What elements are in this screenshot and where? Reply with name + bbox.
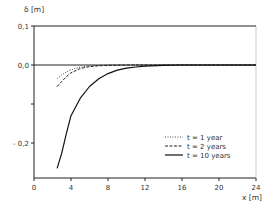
x-axis-title: x [m]: [242, 193, 262, 202]
y-tick-label-0.1: 0,1: [18, 23, 29, 31]
x-tick-label: 12: [141, 184, 150, 192]
x-ticks: 0 4 8 12 16 20 24: [32, 178, 261, 192]
x-tick-label: 20: [215, 184, 224, 192]
x-tick-label: 0: [32, 184, 36, 192]
y-tick-label-minus-0.2: - 0,2: [13, 140, 29, 148]
legend-label-10-years: t = 10 years: [187, 152, 231, 160]
y-ticks: 0,1 0,0 - 0,2: [13, 23, 34, 148]
y-axis-title: δ [m]: [24, 5, 44, 14]
y-tick-label-0.0: 0,0: [18, 62, 29, 70]
x-tick-label: 4: [69, 184, 74, 192]
x-tick-label: 8: [106, 184, 110, 192]
chart-canvas: 0,1 0,0 - 0,2 δ [m] 0 4 8 12 16 20 24 x …: [0, 0, 277, 214]
legend: t = 1 year t = 2 years t = 10 years: [165, 134, 231, 160]
x-tick-label: 24: [252, 184, 261, 192]
x-tick-label: 16: [178, 184, 187, 192]
legend-label-1-year: t = 1 year: [187, 134, 222, 142]
series-line-dashed: [57, 65, 256, 87]
legend-label-2-years: t = 2 years: [187, 143, 226, 151]
